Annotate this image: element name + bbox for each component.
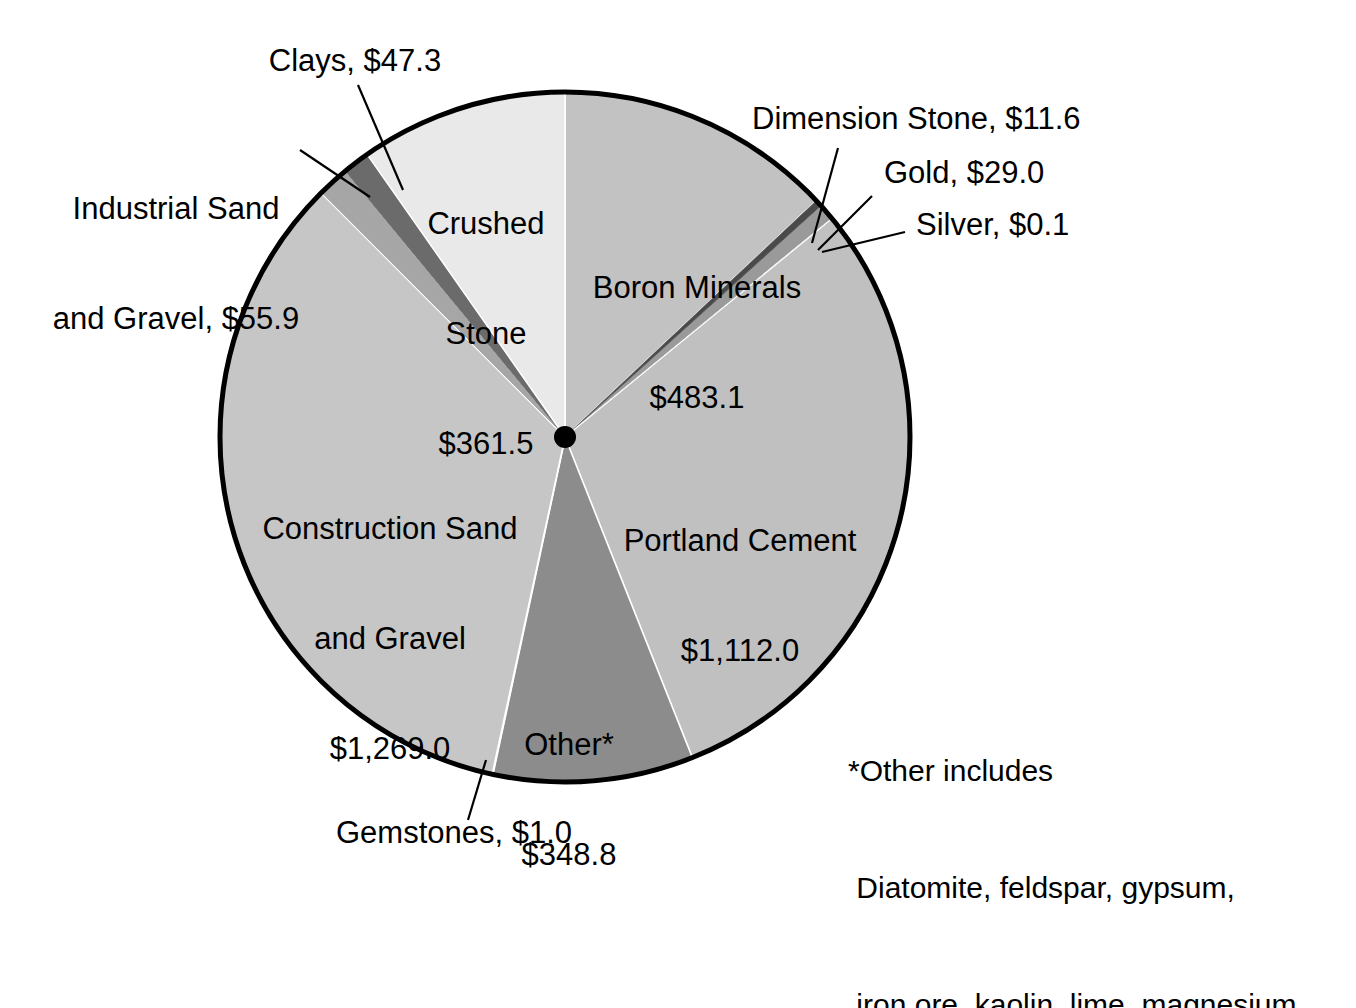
callout-label-gold: Gold, $29.0 [884,155,1144,192]
callout-label-industrial-sand-and-gravel: Industrial Sand and Gravel, $55.9 [45,118,307,411]
slice-label-boron-minerals: Boron Minerals $483.1 [578,197,816,490]
callout-label-dimension-stone: Dimension Stone, $11.6 [752,101,1112,138]
callout-label-clays: Clays, $47.3 [255,43,455,80]
pie-chart-figure: Crushed Stone $361.5 Boron Minerals $483… [0,0,1356,1008]
slice-label-construction-sand-line1: Construction Sand [243,511,537,548]
slice-label-other: Other* $348.8 [472,654,666,947]
slice-label-boron-minerals-value: $483.1 [578,380,816,417]
callout-label-industrial-sand-line1: Industrial Sand [45,191,307,228]
footnote-line-2: Diatomite, feldspar, gypsum, [848,868,1328,907]
slice-label-construction-sand-line2: and Gravel [243,621,537,658]
slice-label-crushed-stone-line1: Crushed [386,206,586,243]
slice-label-crushed-stone-line2: Stone [386,316,586,353]
footnote-other-includes: *Other includes Diatomite, feldspar, gyp… [848,673,1328,1008]
footnote-line-1: *Other includes [848,751,1328,790]
slice-label-portland-cement-line1: Portland Cement [595,523,885,560]
slice-label-boron-minerals-line1: Boron Minerals [578,270,816,307]
callout-label-gemstones: Gemstones, $1.0 [336,815,656,852]
slice-label-other-line1: Other* [472,727,666,764]
callout-label-industrial-sand-line2: and Gravel, $55.9 [45,301,307,338]
callout-label-silver: Silver, $0.1 [916,207,1176,244]
footnote-line-3: iron ore, kaolin, lime, magnesium [848,985,1328,1008]
